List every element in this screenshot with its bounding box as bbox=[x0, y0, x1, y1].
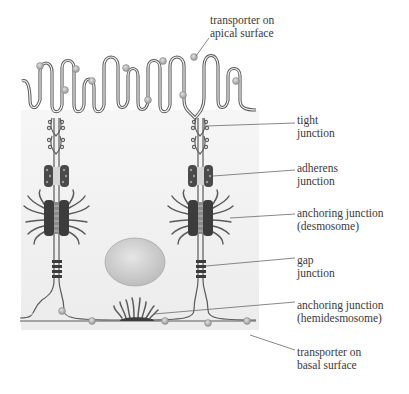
transporter-dot bbox=[89, 318, 96, 325]
label-tight-junction: tight junction bbox=[297, 114, 335, 139]
transporter-dot bbox=[123, 65, 130, 72]
transporter-dot bbox=[59, 308, 66, 315]
transporter-dot bbox=[191, 54, 198, 61]
nucleus bbox=[105, 238, 165, 286]
transporter-dot bbox=[145, 97, 152, 104]
adherens-junction-left bbox=[44, 165, 69, 187]
transporter-dot bbox=[62, 87, 69, 94]
apical-membrane bbox=[22, 56, 256, 119]
label-gap-junction: gap junction bbox=[297, 254, 335, 279]
leader-apical-transporter bbox=[196, 38, 209, 56]
transporter-dot bbox=[205, 320, 212, 327]
transporter-dot bbox=[37, 63, 44, 70]
transporter-dot bbox=[89, 78, 96, 85]
transporter-dot bbox=[233, 78, 240, 85]
transporter-dot bbox=[162, 318, 169, 325]
transporter-dot bbox=[73, 66, 80, 73]
adherens-junction-right bbox=[188, 165, 213, 187]
leader-basal-transporter bbox=[250, 335, 295, 350]
label-apical-transporter: transporter on apical surface bbox=[210, 14, 274, 39]
transporter-dot bbox=[160, 58, 167, 65]
transporter-dot bbox=[244, 318, 251, 325]
label-basal-transporter: transporter on basal surface bbox=[297, 346, 361, 371]
epithelial-junction-diagram bbox=[0, 0, 409, 394]
label-desmosome: anchoring junction (desmosome) bbox=[297, 207, 384, 232]
label-hemidesmosome: anchoring junction (hemidesmosome) bbox=[297, 299, 384, 324]
label-adherens-junction: adherens junction bbox=[297, 162, 338, 187]
transporter-dot bbox=[180, 92, 187, 99]
